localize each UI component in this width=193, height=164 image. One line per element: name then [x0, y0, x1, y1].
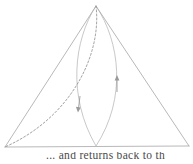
lens-right-arc: [96, 6, 117, 146]
triangle-left-edge: [5, 6, 96, 147]
figure-container: ... and returns back to th: [0, 0, 193, 164]
outer-triangle-group: [5, 6, 189, 147]
triangle-right-edge: [96, 6, 189, 146]
arrow-right-up: [115, 75, 120, 92]
caption-strip: ... and returns back to th: [0, 152, 193, 164]
arrow-left-down-head: [76, 107, 81, 113]
lens-left-arc: [77, 6, 96, 146]
caption-text: ... and returns back to th: [46, 152, 165, 161]
geometry-figure: [0, 0, 193, 164]
triangle-base-edge: [5, 146, 189, 147]
arrow-right-up-head: [115, 75, 120, 81]
